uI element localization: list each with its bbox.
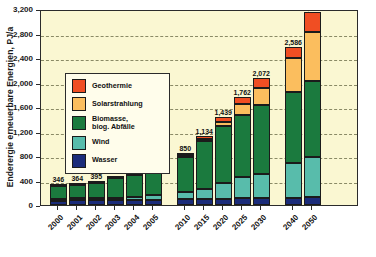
bar-segment-biomasse: [50, 186, 67, 199]
legend-swatch-icon: [72, 136, 86, 150]
bar-value-label: 364: [71, 175, 83, 182]
x-tick-mark: [114, 206, 115, 210]
bar-2001[interactable]: 364: [69, 183, 86, 205]
legend-item-biomasse[interactable]: Biomasse,biog. Abfälle: [72, 115, 163, 132]
legend-swatch-icon: [72, 79, 86, 93]
bar-segment-biomasse: [196, 141, 213, 188]
bar-segment-wind: [215, 183, 232, 198]
bar-2050[interactable]: 3,156: [304, 12, 321, 205]
bar-2000[interactable]: 346: [50, 184, 67, 205]
bar-value-label: 1,762: [233, 89, 251, 96]
legend-item-wasser[interactable]: Wasser: [72, 154, 163, 168]
bar-segment-wasser: [88, 200, 105, 205]
bar-segment-wasser: [234, 198, 251, 205]
bar-value-label: 850: [179, 145, 191, 152]
bar-segment-solarstrahlung: [253, 88, 270, 105]
x-tick-mark: [95, 206, 96, 210]
x-tick-mark: [292, 206, 293, 210]
legend-swatch-icon: [72, 154, 86, 168]
bar-segment-biomasse: [285, 92, 302, 164]
x-tick-label-2020: 2020: [207, 213, 230, 236]
legend-item-solarstrahlung[interactable]: Solarstrahlung: [72, 97, 163, 111]
legend-label: Geothermie: [92, 82, 132, 90]
bar-segment-wind: [285, 163, 302, 197]
bar-segment-wind: [253, 174, 270, 198]
x-tick-label-2002: 2002: [80, 213, 103, 236]
bar-segment-wasser: [177, 199, 194, 205]
bar-value-label: 2,072: [252, 70, 270, 77]
y-tick-label: 1,200: [0, 128, 33, 137]
y-tick-label: 800: [0, 152, 33, 161]
y-tick-label: 2,800: [0, 30, 33, 39]
legend-swatch-icon: [72, 97, 86, 111]
bar-segment-wasser: [126, 200, 143, 205]
bar-2025[interactable]: 1,762: [234, 97, 251, 205]
x-tick-label-2010: 2010: [169, 213, 192, 236]
y-tick-label: 1,600: [0, 103, 33, 112]
x-tick-mark: [260, 206, 261, 210]
legend-swatch-icon: [72, 116, 86, 130]
bar-segment-wind: [234, 177, 251, 198]
bar-segment-solarstrahlung: [285, 58, 302, 92]
bar-segment-geothermie: [285, 47, 302, 58]
bar-segment-biomasse: [69, 185, 86, 199]
x-tick-mark: [76, 206, 77, 210]
bar-segment-wasser: [304, 197, 321, 205]
x-tick-mark: [241, 206, 242, 210]
bar-segment-wind: [304, 157, 321, 197]
x-tick-label-2005: 2005: [137, 213, 160, 236]
y-tick-label: 0: [0, 201, 33, 210]
bar-2004[interactable]: 523: [126, 173, 143, 205]
x-tick-label-2004: 2004: [118, 213, 141, 236]
chart-root: Enderergie erneuerbare Energien, PJ/a 04…: [0, 0, 376, 257]
x-tick-mark: [311, 206, 312, 210]
bar-segment-biomasse: [88, 183, 105, 198]
bar-segment-biomasse: [177, 157, 194, 192]
bar-segment-wasser: [215, 199, 232, 205]
legend-label: Solarstrahlung: [92, 100, 143, 108]
x-tick-mark: [152, 206, 153, 210]
y-tick-label: 2,000: [0, 79, 33, 88]
bar-value-label: 346: [52, 176, 64, 183]
bar-2005[interactable]: 601: [145, 168, 162, 205]
x-tick-label-2050: 2050: [296, 213, 319, 236]
bar-segment-biomasse: [253, 105, 270, 174]
x-tick-mark: [203, 206, 204, 210]
bar-segment-biomasse: [107, 178, 124, 198]
bar-segment-geothermie: [304, 12, 321, 32]
bar-segment-wasser: [253, 198, 270, 205]
bar-2020[interactable]: 1,439: [215, 117, 232, 205]
bar-value-label: 395: [90, 173, 102, 180]
legend-item-geothermie[interactable]: Geothermie: [72, 79, 163, 93]
x-tick-mark: [57, 206, 58, 210]
bar-2002[interactable]: 395: [88, 181, 105, 205]
bar-segment-wasser: [69, 200, 86, 205]
chart-legend: GeothermieSolarstrahlungBiomasse,biog. A…: [65, 73, 170, 174]
bar-segment-biomasse: [126, 175, 143, 197]
legend-item-wind[interactable]: Wind: [72, 136, 163, 150]
x-tick-mark: [184, 206, 185, 210]
bar-2003[interactable]: 473: [107, 176, 124, 205]
bar-value-label: 1,134: [195, 128, 213, 135]
bar-segment-biomasse: [145, 170, 162, 195]
x-tick-label-2015: 2015: [188, 213, 211, 236]
bar-segment-biomasse: [304, 81, 321, 157]
x-tick-mark: [222, 206, 223, 210]
bar-segment-wind: [177, 192, 194, 199]
x-tick-label-2030: 2030: [245, 213, 268, 236]
bar-segment-wasser: [196, 199, 213, 205]
y-tick-mark: [36, 206, 40, 207]
bar-2030[interactable]: 2,072: [253, 78, 270, 205]
plot-frame: 3463643954735236018501,1341,4391,7622,07…: [40, 10, 358, 206]
legend-label: Biomasse,biog. Abfälle: [92, 115, 135, 132]
bar-2040[interactable]: 2,586: [285, 47, 302, 205]
x-tick-label-2000: 2000: [42, 213, 65, 236]
bar-segment-wasser: [107, 200, 124, 205]
x-tick-label-2040: 2040: [277, 213, 300, 236]
y-tick-label: 2,400: [0, 54, 33, 63]
bar-segment-biomasse: [215, 126, 232, 183]
bar-segment-geothermie: [234, 97, 251, 104]
legend-label: Wind: [92, 138, 110, 146]
bar-2010[interactable]: 850: [177, 153, 194, 205]
bar-2015[interactable]: 1,134: [196, 136, 213, 205]
